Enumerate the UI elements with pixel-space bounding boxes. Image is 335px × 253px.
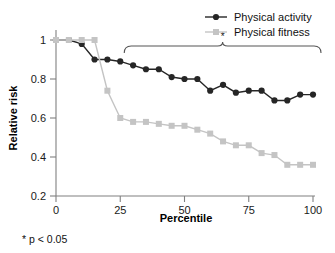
data-point bbox=[194, 127, 200, 133]
data-point bbox=[104, 56, 110, 62]
data-point bbox=[130, 62, 136, 68]
data-point bbox=[143, 66, 149, 72]
y-tick-label: 0.8 bbox=[31, 73, 46, 85]
x-tick-label: 0 bbox=[53, 204, 59, 216]
x-tick-label: 100 bbox=[304, 204, 322, 216]
data-point bbox=[297, 92, 303, 98]
legend-item-1[interactable]: Physical activity bbox=[205, 11, 312, 23]
series-1 bbox=[53, 37, 316, 104]
data-point bbox=[310, 92, 316, 98]
data-point bbox=[169, 74, 175, 80]
data-series-layer bbox=[53, 37, 316, 168]
data-point bbox=[53, 37, 59, 43]
data-point bbox=[181, 76, 187, 82]
data-point bbox=[143, 119, 149, 125]
data-point bbox=[79, 37, 85, 43]
data-point bbox=[259, 88, 265, 94]
data-point bbox=[220, 82, 226, 88]
data-point bbox=[156, 121, 162, 127]
data-point bbox=[220, 138, 226, 144]
bracket-path bbox=[124, 42, 321, 53]
y-axis-title: Relative risk bbox=[7, 85, 19, 151]
x-tick-label: 75 bbox=[243, 204, 255, 216]
data-point bbox=[310, 162, 316, 168]
data-point bbox=[130, 119, 136, 125]
data-point bbox=[271, 152, 277, 158]
data-point bbox=[117, 58, 123, 64]
data-point bbox=[91, 56, 97, 62]
legend-label: Physical activity bbox=[234, 11, 312, 23]
legend-label: Physical fitness bbox=[234, 26, 310, 38]
data-point bbox=[246, 142, 252, 148]
legend-marker bbox=[213, 14, 219, 20]
data-point bbox=[169, 123, 175, 129]
x-axis-title: Percentile bbox=[160, 212, 213, 224]
data-point bbox=[297, 162, 303, 168]
data-point bbox=[182, 123, 188, 129]
series-line bbox=[56, 40, 313, 100]
data-point bbox=[246, 88, 252, 94]
y-tick-label: 0.2 bbox=[31, 190, 46, 202]
x-tick-label: 25 bbox=[114, 204, 126, 216]
data-point bbox=[271, 97, 277, 103]
chart-canvas: 10.80.60.40.2 0255075100 Percentile Rela… bbox=[0, 0, 335, 253]
data-point bbox=[284, 97, 290, 103]
data-point bbox=[92, 37, 98, 43]
footnote-p-value: * p < 0.05 bbox=[22, 233, 67, 245]
data-point bbox=[104, 88, 110, 94]
data-point bbox=[117, 115, 123, 121]
relative-risk-chart-figure: 10.80.60.40.2 0255075100 Percentile Rela… bbox=[0, 0, 335, 253]
data-point bbox=[207, 88, 213, 94]
data-point bbox=[156, 66, 162, 72]
y-tick-label: 1 bbox=[40, 34, 46, 46]
data-point bbox=[233, 90, 239, 96]
data-point bbox=[233, 142, 239, 148]
legend-marker bbox=[213, 29, 219, 35]
data-point bbox=[284, 162, 290, 168]
y-tick-label: 0.4 bbox=[31, 151, 46, 163]
y-axis-ticks: 10.80.60.40.2 bbox=[31, 34, 56, 202]
data-point bbox=[66, 37, 72, 43]
data-point bbox=[259, 150, 265, 156]
data-point bbox=[207, 131, 213, 137]
y-tick-label: 0.6 bbox=[31, 112, 46, 124]
data-point bbox=[194, 76, 200, 82]
